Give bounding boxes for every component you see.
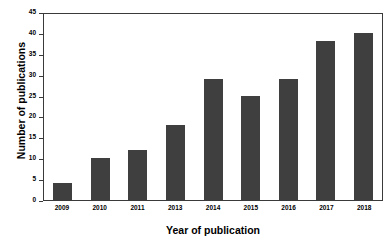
bar-slot (119, 14, 157, 200)
bar-2011[interactable] (128, 150, 147, 200)
bar-slot (345, 14, 383, 200)
x-tick-label-2014: 2014 (194, 203, 232, 217)
bar-chart-figure: Number of publications 05101520253035404… (0, 0, 391, 243)
x-tick-label-2009: 2009 (43, 203, 81, 217)
bar-slot (269, 14, 307, 200)
bar-2010[interactable] (91, 158, 110, 200)
bars-layer (44, 14, 382, 200)
bar-2018[interactable] (354, 33, 373, 200)
y-axis-ticks: 051015202530354045 (0, 0, 43, 243)
x-tick-label-2016: 2016 (270, 203, 308, 217)
x-axis-ticks: 200920102011201320142015201620172018 (43, 203, 383, 217)
bar-slot (232, 14, 270, 200)
bar-slot (307, 14, 345, 200)
bar-2014[interactable] (204, 79, 223, 200)
bar-slot (194, 14, 232, 200)
bar-2016[interactable] (279, 79, 298, 200)
y-tick-label: 20 (29, 112, 36, 119)
y-tick-label: 40 (29, 29, 36, 36)
bar-slot (82, 14, 120, 200)
y-tick-label: 15 (29, 133, 36, 140)
x-tick-label-2017: 2017 (307, 203, 345, 217)
y-tick-mark (39, 201, 43, 202)
bar-slot (157, 14, 195, 200)
y-tick-label: 25 (29, 92, 36, 99)
y-tick-label: 5 (32, 175, 36, 182)
bar-2009[interactable] (53, 183, 72, 200)
bar-2015[interactable] (241, 96, 260, 200)
y-tick-label: 10 (29, 154, 36, 161)
x-tick-label-2013: 2013 (156, 203, 194, 217)
x-axis-title: Year of publication (43, 224, 383, 236)
x-tick-label-2010: 2010 (81, 203, 119, 217)
y-tick-label: 45 (29, 8, 36, 15)
x-tick-label-2018: 2018 (345, 203, 383, 217)
y-tick-label: 30 (29, 71, 36, 78)
y-tick-label: 35 (29, 50, 36, 57)
bar-2013[interactable] (166, 125, 185, 200)
bar-2017[interactable] (316, 41, 335, 200)
bar-slot (44, 14, 82, 200)
x-tick-label-2011: 2011 (119, 203, 157, 217)
x-tick-label-2015: 2015 (232, 203, 270, 217)
y-tick-label: 0 (32, 196, 36, 203)
plot-area (43, 13, 383, 201)
